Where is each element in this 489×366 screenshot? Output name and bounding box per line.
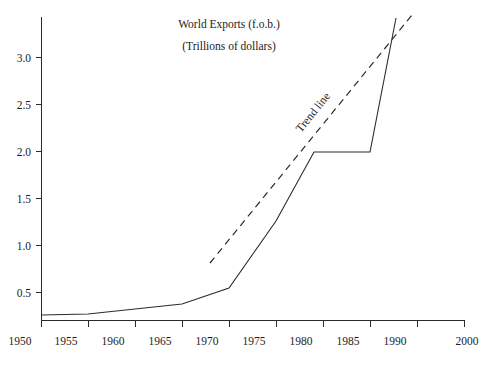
world-exports-line-chart: 3.0 2.5 2.0 1.5 1.0 0.5 1950 1955 1960 1…	[0, 0, 489, 366]
x-axis-ticks	[42, 321, 465, 327]
chart-subtitle: (Trillions of dollars)	[182, 40, 276, 53]
y-tick-label-1-0: 1.0	[17, 240, 32, 252]
chart-title: World Exports (f.o.b.)	[178, 18, 280, 31]
x-tick-label-1955: 1955	[55, 335, 78, 347]
y-tick-label-3-0: 3.0	[17, 52, 32, 64]
x-tick-label-2000: 2000	[456, 335, 479, 347]
y-tick-label-2-0: 2.0	[17, 146, 32, 158]
y-axis-ticks	[36, 58, 42, 293]
x-tick-label-1985: 1985	[337, 335, 360, 347]
x-tick-label-1950: 1950	[9, 335, 32, 347]
y-tick-label-2-5: 2.5	[17, 99, 32, 111]
x-axis-labels: 1950 1955 1960 1965 1970 1975 1980 1985 …	[9, 335, 479, 347]
x-tick-label-1980: 1980	[290, 335, 313, 347]
x-tick-label-1975: 1975	[243, 335, 266, 347]
x-tick-label-1990: 1990	[384, 335, 407, 347]
world-exports-series-line	[41, 18, 396, 315]
y-tick-label-1-5: 1.5	[17, 193, 32, 205]
y-tick-label-0-5: 0.5	[17, 287, 32, 299]
x-tick-label-1960: 1960	[102, 335, 125, 347]
y-axis-labels: 3.0 2.5 2.0 1.5 1.0 0.5	[17, 52, 32, 299]
x-tick-label-1970: 1970	[196, 335, 219, 347]
trend-series-line	[210, 15, 412, 263]
chart-container: 3.0 2.5 2.0 1.5 1.0 0.5 1950 1955 1960 1…	[0, 0, 489, 366]
trend-line-label: Trend line	[293, 90, 332, 134]
x-tick-label-1965: 1965	[149, 335, 172, 347]
